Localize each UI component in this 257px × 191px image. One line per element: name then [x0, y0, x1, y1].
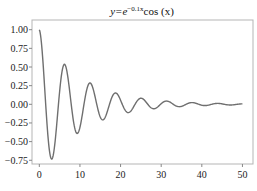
y-tick-label: 1.00 [11, 24, 29, 35]
x-tick-label: 50 [237, 169, 247, 180]
chart-title: y=e−0.1xcos (x) [109, 5, 174, 18]
x-tick-label: 30 [156, 169, 166, 180]
data-line [39, 30, 242, 159]
x-tick-label: 20 [116, 169, 126, 180]
y-axis: 1.000.750.500.250.00−0.25−0.50−0.75 [5, 24, 32, 166]
x-axis: 01020304050 [37, 164, 248, 180]
y-tick-label: 0.75 [11, 43, 29, 54]
y-tick-label: 0.25 [11, 80, 29, 91]
x-tick-label: 10 [75, 169, 85, 180]
x-tick-label: 0 [37, 169, 42, 180]
y-tick-label: −0.25 [5, 117, 28, 128]
chart: y=e−0.1xcos (x) 01020304050 1.000.750.50… [0, 0, 257, 191]
y-tick-label: −0.75 [5, 155, 28, 166]
title-tail: cos (x) [144, 5, 175, 18]
y-tick-label: −0.50 [5, 136, 28, 147]
x-tick-label: 40 [197, 169, 207, 180]
y-tick-label: 0.00 [11, 99, 29, 110]
plot-frame [32, 20, 253, 164]
y-tick-label: 0.50 [11, 62, 29, 73]
title-base: y=e [109, 5, 127, 17]
title-exponent: −0.1x [127, 5, 144, 13]
